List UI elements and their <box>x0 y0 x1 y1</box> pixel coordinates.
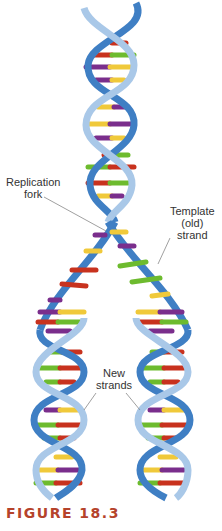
new-strands-label: New strands <box>96 367 132 391</box>
parental-helix <box>84 3 138 222</box>
template-strand-label: Template (old) strand <box>170 205 215 241</box>
replication-fork-label: Replication fork <box>6 176 60 200</box>
figure-caption: FIGURE 18.3 <box>6 505 120 521</box>
replication-fork-region <box>40 222 188 330</box>
daughter-helix-left <box>34 318 84 498</box>
dna-replication-diagram <box>0 0 222 531</box>
daughter-helix-right <box>136 318 190 498</box>
